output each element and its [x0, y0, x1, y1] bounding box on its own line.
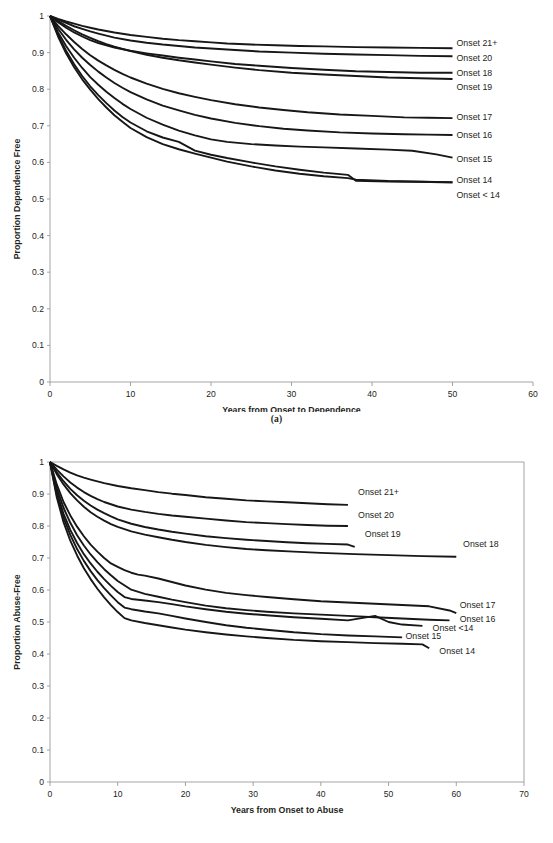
- series-label-onset-20: Onset 20: [358, 510, 394, 520]
- series-label-onset-17: Onset 17: [460, 600, 496, 610]
- y-axis-title: Proportion Dependence Free: [12, 139, 22, 260]
- series-label-onset-20: Onset 20: [457, 53, 493, 63]
- figure-caption-a: (a): [0, 414, 553, 424]
- chart-axes: [50, 462, 524, 782]
- x-tick-label: 0: [48, 389, 53, 399]
- series-label-onset-16: Onset 16: [460, 614, 496, 624]
- x-axis-title: Years from Onset to Abuse: [231, 805, 344, 815]
- y-tick-label: 0.5: [32, 194, 44, 204]
- series-label-onset-19: Onset 19: [365, 529, 401, 539]
- y-tick-label: 0.1: [32, 340, 44, 350]
- series-curve-onset-18: [50, 462, 456, 557]
- y-tick-label: 0.7: [32, 553, 44, 563]
- y-tick-label: 0.8: [32, 521, 44, 531]
- series-label-onset-14: Onset 14: [457, 175, 493, 185]
- series-curve-onset-21: [50, 16, 453, 48]
- series-label-onset-16: Onset 16: [457, 130, 493, 140]
- series-label-onset-18: Onset 18: [463, 539, 499, 549]
- x-axis-ticks: 010203040506070: [48, 782, 529, 799]
- series-label-onset-21: Onset 21+: [457, 38, 498, 48]
- series-curve-onset-14: [50, 16, 453, 182]
- x-tick-label: 50: [448, 389, 458, 399]
- series-label-onset-18: Onset 18: [457, 68, 493, 78]
- series-label-onset-17: Onset 17: [457, 112, 493, 122]
- chart-a-plot-area: 00.10.20.30.40.50.60.70.80.9101020304050…: [0, 0, 553, 412]
- series-labels-group: Onset 21+Onset 20Onset 19Onset 18Onset 1…: [358, 487, 499, 655]
- y-tick-label: 0.6: [32, 585, 44, 595]
- y-tick-label: 0.4: [32, 649, 44, 659]
- y-axis-ticks: 00.10.20.30.40.50.60.70.80.91: [32, 11, 50, 387]
- y-tick-label: 0.5: [32, 617, 44, 627]
- series-label-onset-15: Onset 15: [457, 154, 493, 164]
- series-label-onset-19: Onset 19: [457, 82, 493, 92]
- series-labels-group: Onset 21+Onset 20Onset 18Onset 19Onset 1…: [457, 38, 500, 199]
- series-label-onset-21: Onset 21+: [358, 487, 399, 497]
- y-tick-label: 0.3: [32, 267, 44, 277]
- y-tick-label: 0.6: [32, 157, 44, 167]
- x-axis-title: Years from Onset to Dependence: [222, 405, 360, 412]
- series-curve-onset-20: [50, 462, 348, 526]
- x-tick-label: 20: [181, 789, 191, 799]
- y-tick-label: 1: [39, 11, 44, 21]
- x-tick-label: 10: [126, 389, 136, 399]
- series-curve-onset-19: [50, 462, 355, 547]
- x-tick-label: 70: [519, 789, 529, 799]
- y-tick-label: 1: [39, 457, 44, 467]
- x-tick-label: 30: [248, 789, 258, 799]
- y-tick-label: 0.2: [32, 304, 44, 314]
- y-tick-label: 0.4: [32, 231, 44, 241]
- y-tick-label: 0.7: [32, 121, 44, 131]
- series-label-onset-15: Onset 15: [406, 631, 442, 641]
- series-label-onset-14: Onset < 14: [457, 190, 500, 200]
- figure-panel-a: 00.10.20.30.40.50.60.70.80.9101020304050…: [0, 0, 553, 432]
- y-tick-label: 0.3: [32, 681, 44, 691]
- x-tick-label: 30: [287, 389, 297, 399]
- series-curve-onset-20: [50, 16, 453, 56]
- y-tick-label: 0.9: [32, 48, 44, 58]
- series-curve-onset-16: [50, 462, 450, 620]
- y-tick-label: 0.9: [32, 489, 44, 499]
- x-tick-label: 40: [316, 789, 326, 799]
- y-tick-label: 0: [39, 777, 44, 787]
- y-tick-label: 0.2: [32, 713, 44, 723]
- x-axis-ticks: 0102030405060: [48, 382, 538, 399]
- x-tick-label: 10: [113, 789, 123, 799]
- chart-b-svg: 00.10.20.30.40.50.60.70.80.9101020304050…: [0, 432, 553, 827]
- chart-b-plot-area: 00.10.20.30.40.50.60.70.80.9101020304050…: [0, 432, 553, 827]
- x-tick-label: 60: [452, 789, 462, 799]
- y-tick-label: 0.1: [32, 745, 44, 755]
- chart-series-group: [50, 16, 453, 183]
- x-tick-label: 0: [48, 789, 53, 799]
- series-curve-onset-14: [50, 16, 453, 183]
- y-tick-label: 0: [39, 377, 44, 387]
- figure-panel-b: 00.10.20.30.40.50.60.70.80.9101020304050…: [0, 432, 553, 843]
- series-label-onset-14: Onset 14: [439, 646, 475, 656]
- x-tick-label: 60: [528, 389, 538, 399]
- x-tick-label: 50: [384, 789, 394, 799]
- x-tick-label: 40: [367, 389, 377, 399]
- chart-a-svg: 00.10.20.30.40.50.60.70.80.9101020304050…: [0, 0, 553, 412]
- y-axis-ticks: 00.10.20.30.40.50.60.70.80.91: [32, 457, 50, 787]
- y-axis-title: Proportion Abuse-Free: [12, 574, 22, 670]
- x-tick-label: 20: [206, 389, 216, 399]
- y-tick-label: 0.8: [32, 84, 44, 94]
